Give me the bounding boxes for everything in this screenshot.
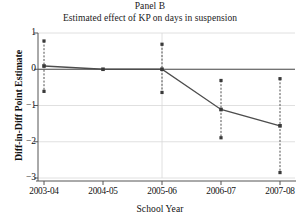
y-tick-label: −3 xyxy=(14,173,36,183)
data-point-marker xyxy=(219,108,223,112)
data-point-marker xyxy=(42,64,46,68)
chart-figure: Panel B Estimated effect of KP on days i… xyxy=(0,0,300,222)
error-bar-cap xyxy=(219,136,222,139)
y-tick-label: 0 xyxy=(14,64,36,74)
plot-area: Diff-in-Diff Point Estimate School Year … xyxy=(0,0,300,222)
y-tick-label: −1 xyxy=(14,101,36,111)
x-tick-label: 2006-07 xyxy=(191,186,251,196)
error-bar-cap xyxy=(160,43,163,46)
y-tick-label: 1 xyxy=(14,28,36,38)
data-point-marker xyxy=(278,124,282,128)
error-bar-cap xyxy=(219,79,222,82)
data-point-marker xyxy=(101,67,105,71)
error-bar-cap xyxy=(278,77,281,80)
error-bar-cap xyxy=(42,39,45,42)
x-tick-label: 2007-08 xyxy=(250,186,300,196)
error-bar-cap xyxy=(160,91,163,94)
x-tick-label: 2004-05 xyxy=(73,186,133,196)
y-tick-label: −2 xyxy=(14,137,36,147)
data-point-marker xyxy=(160,67,164,71)
error-bar-cap xyxy=(42,90,45,93)
x-tick-label: 2005-06 xyxy=(132,186,192,196)
x-tick-label: 2003-04 xyxy=(14,186,74,196)
error-bar-cap xyxy=(278,171,281,174)
